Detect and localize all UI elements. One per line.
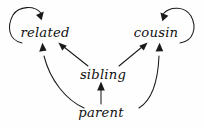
edge-parent-to-related <box>39 43 84 108</box>
edge-sibling-related-path <box>64 47 88 66</box>
node-label-cousin[interactable]: cousin <box>134 26 179 39</box>
edge-sibling-cousin-path <box>119 47 142 66</box>
edge-parent-sibling-arrowhead <box>97 82 105 91</box>
node-label-related[interactable]: related <box>20 26 69 39</box>
node-label-sibling[interactable]: sibling <box>80 68 126 81</box>
diagram-canvas: related cousin sibling parent <box>0 0 204 128</box>
edge-parent-cousin-path <box>139 56 159 108</box>
edge-sibling-cousin-arrowhead <box>139 43 147 51</box>
edge-sibling-to-related <box>58 43 88 66</box>
node-label-parent[interactable]: parent <box>78 106 123 119</box>
edge-parent-to-cousin <box>139 43 163 108</box>
edge-parent-cousin-arrowhead <box>156 43 164 52</box>
edge-related-self-arrowhead <box>36 12 44 21</box>
edge-parent-related-arrowhead <box>39 43 46 52</box>
edge-cousin-self-arrowhead <box>160 12 168 21</box>
edge-sibling-to-cousin <box>119 43 148 66</box>
edge-parent-to-sibling <box>97 82 105 105</box>
edge-sibling-related-arrowhead <box>58 43 66 51</box>
edge-parent-related-path <box>44 56 84 108</box>
